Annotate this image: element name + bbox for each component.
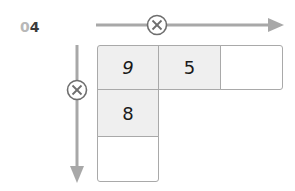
horizontal-multiply-icon xyxy=(148,16,167,35)
arrow-right-icon xyxy=(268,18,284,32)
grid-cell-column-answer[interactable] xyxy=(97,136,159,182)
vertical-arrow xyxy=(70,45,84,183)
grid-cell-column-2: 8 xyxy=(97,89,159,137)
arrow-down-icon xyxy=(70,166,84,183)
grid-cell-row-2: 5 xyxy=(158,45,221,90)
vertical-multiply-icon xyxy=(68,81,87,100)
grid-cell-row-answer[interactable] xyxy=(220,45,283,90)
horizontal-arrow xyxy=(96,18,284,32)
grid-cell-shared: 9 xyxy=(97,45,159,90)
